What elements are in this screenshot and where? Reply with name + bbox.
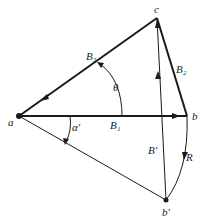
label-a: a [8, 116, 14, 128]
label-b: b [192, 110, 198, 122]
label-R: R [185, 151, 193, 163]
vector-diagram: c a b b′ B₁ B₂ B₃ B′ θ α′ R [0, 0, 207, 224]
label-c: c [154, 3, 159, 15]
arrow-theta-icon [97, 62, 104, 68]
label-B1: B₁ [110, 119, 121, 131]
edge-B3 [19, 18, 157, 116]
label-theta: θ [113, 81, 119, 93]
arc-theta [100, 64, 122, 116]
arc-alpha-prime [66, 116, 71, 142]
edge-a-b-prime [19, 116, 166, 200]
label-B3: B₃ [86, 50, 97, 62]
point-b-prime [164, 198, 169, 203]
label-b-prime: b′ [162, 206, 171, 218]
label-B-prime: B′ [148, 144, 158, 156]
label-alpha-prime: α′ [72, 121, 81, 133]
arrow-B1-icon [172, 113, 180, 119]
point-a [16, 113, 22, 119]
label-B2: B₂ [176, 63, 187, 75]
